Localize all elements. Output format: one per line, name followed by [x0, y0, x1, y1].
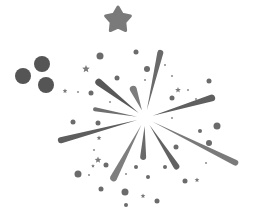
sparkle-tiny-dot	[77, 91, 79, 93]
sparkle-dot	[183, 179, 188, 184]
sparkle-dot	[206, 140, 212, 146]
sparkle-dot	[104, 163, 109, 168]
sparkle-dot	[134, 165, 138, 169]
sparkle-tiny-dot	[164, 64, 166, 66]
sparkle-dot	[115, 76, 120, 81]
sparkle-dot	[170, 96, 175, 101]
firework-illustration	[0, 0, 256, 224]
cluster-dot	[15, 68, 31, 84]
sparkle-tiny-dot	[171, 75, 173, 77]
sparkle-dot	[71, 120, 76, 125]
sparkle-dot	[124, 203, 128, 207]
cluster-dot	[38, 77, 54, 93]
sparkle-tiny-dot	[195, 98, 197, 100]
sparkle-dot	[155, 199, 160, 204]
sparkle-dot	[214, 123, 221, 130]
sparkle-dot	[89, 91, 94, 96]
sparkle-dot	[198, 129, 202, 133]
sparkle-tiny-dot	[88, 174, 90, 176]
sparkle-dot	[163, 165, 167, 169]
sparkle-tiny-dot	[109, 101, 111, 103]
cluster-dot	[34, 56, 50, 72]
sparkle-tiny-dot	[93, 149, 95, 151]
sparkle-tiny-dot	[125, 173, 127, 175]
sparkle-dot	[174, 145, 179, 150]
sparkle-tiny-dot	[187, 89, 189, 91]
sparkle-dot	[122, 189, 129, 196]
sparkle-dot	[134, 50, 139, 55]
sparkle-dot	[96, 121, 101, 126]
sparkle-dot	[75, 171, 82, 178]
sparkle-dot	[97, 53, 104, 60]
sparkle-dot	[146, 175, 150, 179]
sparkle-dot	[144, 66, 150, 72]
sparkle-dot	[207, 79, 212, 84]
sparkle-dot	[99, 187, 104, 192]
sparkle-tiny-dot	[171, 117, 173, 119]
sparkle-tiny-dot	[144, 79, 146, 81]
sparkle-tiny-dot	[205, 162, 207, 164]
